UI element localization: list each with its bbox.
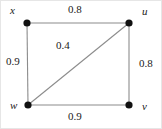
vertex-label-x: x [10,5,15,16]
edge-weight-x-w: 0.9 [6,56,20,67]
vertex-label-u: u [142,6,148,17]
vertex-label-w: w [10,100,17,111]
vertex-v-dot [125,101,132,108]
graph-figure: x u w v 0.8 0.9 0.8 0.9 0.4 [0,0,162,129]
vertex-x-dot [23,19,30,26]
vertex-w-dot [24,101,31,108]
edge-weight-w-v: 0.9 [68,111,82,122]
edge-x-w [27,23,28,105]
edge-weight-x-u: 0.8 [68,4,82,15]
vertex-label-v: v [142,101,147,112]
vertex-u-dot [125,19,132,26]
edge-weight-u-v: 0.8 [139,58,153,69]
edge-weight-w-u: 0.4 [56,40,70,51]
edge-w-u-diagonal [28,23,129,105]
